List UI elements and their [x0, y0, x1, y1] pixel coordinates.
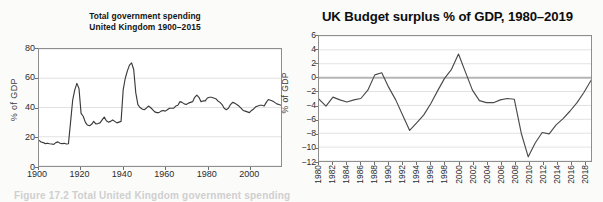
- x-tick-mark: [501, 162, 502, 165]
- chart-panel-total-government-spending: Total government spending United Kingdom…: [0, 0, 290, 202]
- y-tick-mark: [35, 48, 38, 49]
- y-tick-label: 40: [13, 103, 35, 112]
- x-tick-mark: [38, 167, 39, 170]
- x-tick-mark: [543, 162, 544, 165]
- y-tick-mark: [315, 134, 318, 135]
- y-tick-label: 0: [292, 73, 316, 82]
- x-tick-label: 1980: [197, 170, 217, 179]
- y-tick-label: −2: [292, 87, 316, 96]
- x-tick-label: 2018: [581, 165, 590, 184]
- x-tick-label: 2008: [511, 165, 520, 184]
- x-tick-label: 2010: [525, 165, 534, 184]
- x-tick-label: 1940: [112, 170, 132, 179]
- x-tick-label: 2000: [455, 165, 464, 184]
- x-tick-mark: [430, 162, 431, 165]
- y-tick-label: 80: [13, 44, 35, 53]
- y-tick-label: 4: [292, 45, 316, 54]
- line-chart-left: [39, 49, 281, 166]
- plot-area-right: [318, 35, 592, 162]
- y-tick-label: −4: [292, 101, 316, 110]
- x-tick-label: 1992: [398, 165, 407, 184]
- x-tick-label: 2002: [469, 165, 478, 184]
- x-tick-label: 1986: [356, 165, 365, 184]
- x-tick-mark: [487, 162, 488, 165]
- plot-area-left: [38, 48, 282, 167]
- x-tick-label: 1980: [314, 165, 323, 184]
- x-tick-label: 2012: [539, 165, 548, 184]
- y-tick-mark: [315, 77, 318, 78]
- x-tick-label: 2016: [567, 165, 576, 184]
- y-tick-mark: [35, 137, 38, 138]
- x-tick-mark: [529, 162, 530, 165]
- x-tick-label: 1994: [412, 165, 421, 184]
- x-tick-mark: [416, 162, 417, 165]
- y-tick-mark: [315, 35, 318, 36]
- figure-caption: Figure 17.2 Total United Kingdom governm…: [14, 190, 290, 201]
- x-tick-label: 1960: [154, 170, 174, 179]
- x-tick-mark: [318, 162, 319, 165]
- y-tick-label: −8: [292, 129, 316, 138]
- x-tick-label: 1998: [440, 165, 449, 184]
- x-tick-mark: [585, 162, 586, 165]
- chart-title-left-line2: United Kingdom 1900–2015: [0, 22, 290, 33]
- x-tick-label: 1990: [384, 165, 393, 184]
- x-tick-mark: [346, 162, 347, 165]
- x-tick-mark: [459, 162, 460, 165]
- y-tick-label: 60: [13, 73, 35, 82]
- x-tick-mark: [444, 162, 445, 165]
- x-tick-mark: [360, 162, 361, 165]
- x-tick-mark: [374, 162, 375, 165]
- y-tick-label: 6: [292, 31, 316, 40]
- x-tick-mark: [80, 167, 81, 170]
- y-tick-mark: [315, 106, 318, 107]
- figure-page: Total government spending United Kingdom…: [0, 0, 603, 202]
- y-tick-mark: [315, 91, 318, 92]
- x-tick-label: 2006: [497, 165, 506, 184]
- x-tick-mark: [388, 162, 389, 165]
- x-tick-label: 2004: [483, 165, 492, 184]
- x-tick-mark: [402, 162, 403, 165]
- x-tick-mark: [165, 167, 166, 170]
- y-tick-mark: [315, 120, 318, 121]
- x-tick-mark: [208, 167, 209, 170]
- x-tick-label: 1920: [69, 170, 89, 179]
- x-tick-label: 1982: [328, 165, 337, 184]
- x-tick-mark: [250, 167, 251, 170]
- x-tick-label: 2014: [553, 165, 562, 184]
- x-tick-mark: [571, 162, 572, 165]
- y-tick-mark: [35, 108, 38, 109]
- x-tick-mark: [473, 162, 474, 165]
- line-chart-right: [319, 36, 591, 161]
- y-tick-label: −10: [292, 143, 316, 152]
- y-tick-mark: [315, 49, 318, 50]
- y-tick-label: 20: [13, 133, 35, 142]
- y-tick-mark: [315, 63, 318, 64]
- y-tick-label: 2: [292, 59, 316, 68]
- x-tick-label: 1900: [27, 170, 47, 179]
- x-tick-label: 1988: [370, 165, 379, 184]
- x-tick-label: 1984: [342, 165, 351, 184]
- chart-title-left: Total government spending United Kingdom…: [0, 11, 290, 32]
- x-tick-mark: [123, 167, 124, 170]
- x-tick-mark: [332, 162, 333, 165]
- x-tick-label: 1996: [426, 165, 435, 184]
- chart-title-left-line1: Total government spending: [0, 11, 290, 22]
- y-tick-label: −6: [292, 115, 316, 124]
- y-tick-mark: [35, 78, 38, 79]
- y-axis-title-right: % of GDP: [280, 72, 290, 113]
- y-tick-mark: [315, 148, 318, 149]
- x-tick-mark: [515, 162, 516, 165]
- x-tick-mark: [557, 162, 558, 165]
- chart-title-right: UK Budget surplus % of GDP, 1980–2019: [294, 9, 601, 24]
- y-axis-title-left: % of GDP: [9, 78, 19, 121]
- x-tick-label: 2000: [239, 170, 259, 179]
